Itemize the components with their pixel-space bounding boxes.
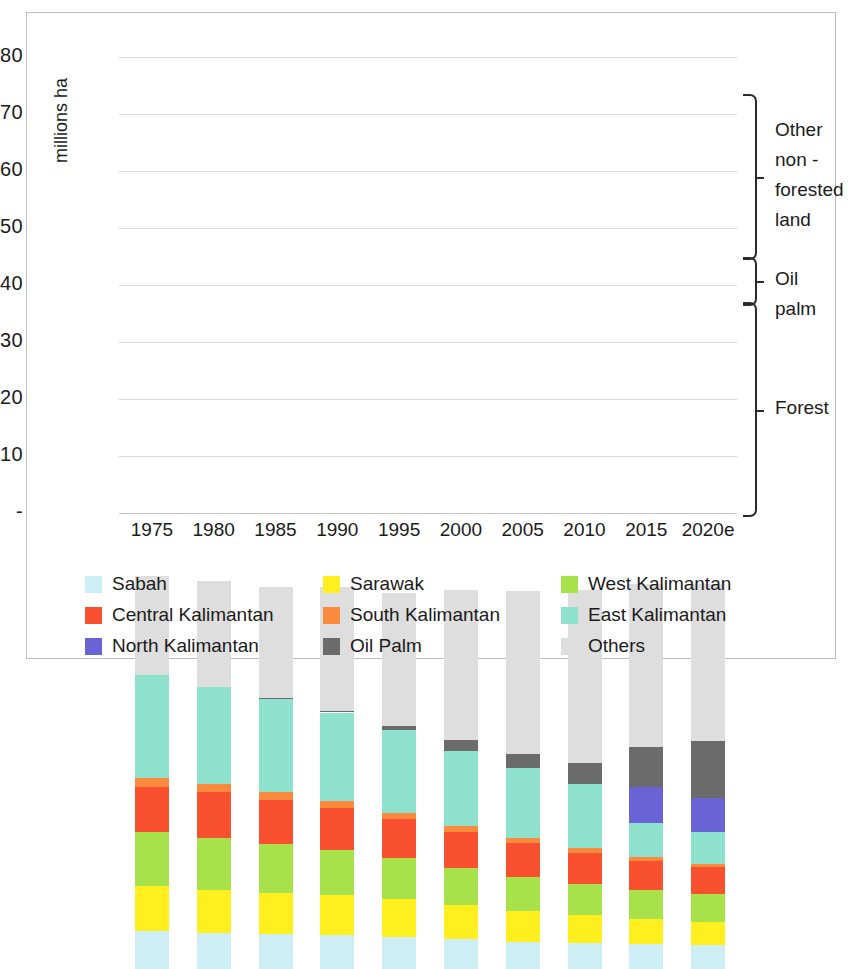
bar-segment <box>444 740 478 751</box>
bracket-label-forest: Forest <box>775 393 829 423</box>
legend-label: South Kalimantan <box>350 604 500 626</box>
bar-segment <box>259 934 293 969</box>
plot-area: -1020304050607080 1975198019851990199520… <box>119 57 737 513</box>
bracket-other-non-forested-land <box>743 94 757 260</box>
bar-segment <box>444 939 478 969</box>
y-axis-tick-label: 60 <box>0 158 23 181</box>
bar-segment <box>629 747 663 787</box>
bar-segment <box>320 808 354 850</box>
bar-segment <box>197 933 231 969</box>
bar-segment <box>568 848 602 853</box>
bracket-label-oil-palm: Oil palm <box>775 264 835 324</box>
bar-segment <box>568 853 602 884</box>
bar-segment <box>197 784 231 793</box>
y-axis-tick-label: 30 <box>0 329 23 352</box>
bar-segment <box>197 838 231 890</box>
bar-segment <box>568 763 602 784</box>
bracket-oil-palm <box>743 257 757 307</box>
bar-segment <box>691 894 725 922</box>
legend-swatch <box>85 576 102 593</box>
bar-segment <box>259 893 293 934</box>
bar-segment <box>320 711 354 713</box>
legend-label: Sarawak <box>350 573 424 595</box>
legend-label: Central Kalimantan <box>112 604 274 626</box>
legend-item[interactable]: Sabah <box>85 573 323 595</box>
bar-segment <box>691 945 725 969</box>
bar-segment <box>629 861 663 890</box>
y-axis-tick-label: 80 <box>0 44 23 67</box>
legend-label: West Kalimantan <box>588 573 731 595</box>
bar-segment <box>320 713 354 801</box>
bar-segment <box>629 823 663 857</box>
bar-segment <box>135 675 169 778</box>
y-axis-tick-label: 40 <box>0 272 23 295</box>
bracket-label-line: non - <box>775 145 844 175</box>
legend-swatch <box>323 576 340 593</box>
bar-segment <box>382 858 416 900</box>
legend-label: North Kalimantan <box>112 635 259 657</box>
bar-segment <box>135 778 169 787</box>
legend-item[interactable]: West Kalimantan <box>561 573 799 595</box>
legend-swatch <box>561 638 578 655</box>
bar-segment <box>444 905 478 939</box>
legend-item[interactable]: North Kalimantan <box>85 635 323 657</box>
y-axis-tick-label: - <box>0 500 23 523</box>
bar-segment <box>691 922 725 945</box>
bracket-tick <box>755 177 764 179</box>
legend-item[interactable]: East Kalimantan <box>561 604 799 626</box>
bar-segment <box>506 843 540 877</box>
legend-swatch <box>85 638 102 655</box>
bracket-tick <box>755 281 764 283</box>
y-axis-tick-label: 50 <box>0 215 23 238</box>
bar-segment <box>568 784 602 848</box>
bar-segment <box>629 857 663 861</box>
bracket-forest <box>743 302 757 517</box>
bar-segment <box>691 741 725 798</box>
bar-segment <box>382 899 416 937</box>
bar-segment <box>506 942 540 969</box>
legend-item[interactable]: South Kalimantan <box>323 604 561 626</box>
y-axis-title: millions ha <box>51 78 72 163</box>
bar-segment <box>382 937 416 969</box>
bracket-tick <box>755 410 764 412</box>
bracket-label-line: forested <box>775 175 844 205</box>
bar-segment <box>320 935 354 969</box>
bracket-label-other-non-forested-land: Othernon -forestedland <box>775 115 844 235</box>
bar-segment <box>135 787 169 833</box>
bar-segment <box>320 895 354 935</box>
bar-segment <box>444 751 478 826</box>
x-axis-tick-label: 2020e <box>663 519 753 541</box>
bar-segment <box>382 730 416 813</box>
bar-segment <box>691 864 725 867</box>
bar-segment <box>135 931 169 969</box>
bar-segment <box>382 819 416 858</box>
bar-segment <box>197 792 231 838</box>
legend-label: Others <box>588 635 645 657</box>
bar-segment <box>444 832 478 868</box>
bar-segment <box>506 877 540 911</box>
bar-segment <box>197 687 231 784</box>
bar-segment <box>259 800 293 843</box>
bar-segment <box>259 792 293 800</box>
bar-segment <box>506 768 540 838</box>
y-axis-tick-label: 10 <box>0 443 23 466</box>
legend-label: Oil Palm <box>350 635 422 657</box>
legend-item[interactable]: Sarawak <box>323 573 561 595</box>
bar-segment <box>320 801 354 808</box>
y-axis-tick-label: 20 <box>0 386 23 409</box>
legend-swatch <box>323 638 340 655</box>
legend-item[interactable]: Oil Palm <box>323 635 561 657</box>
bracket-label-line: land <box>775 205 844 235</box>
bar-segment <box>568 884 602 915</box>
chart-legend: SabahSarawakWest KalimantanCentral Kalim… <box>85 573 850 657</box>
legend-item[interactable]: Others <box>561 635 799 657</box>
bar-segment <box>568 915 602 943</box>
bar-series-group <box>119 57 737 513</box>
bar-segment <box>506 838 540 843</box>
legend-swatch <box>561 576 578 593</box>
bar-segment <box>629 944 663 969</box>
legend-item[interactable]: Central Kalimantan <box>85 604 323 626</box>
bar-segment <box>259 698 293 699</box>
bar-segment <box>135 886 169 930</box>
bar-segment <box>691 867 725 894</box>
